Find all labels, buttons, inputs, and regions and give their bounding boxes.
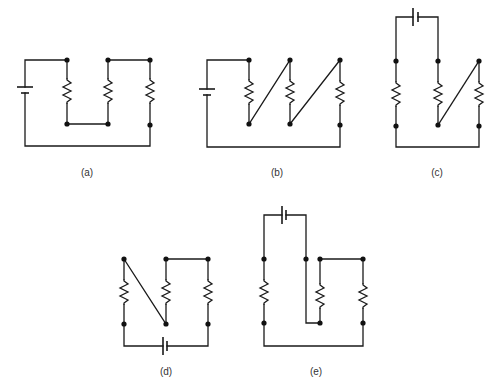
resistor-2 — [104, 78, 112, 104]
resistor-2 — [434, 81, 442, 107]
label-e: (e) — [310, 366, 322, 377]
resistor-1 — [63, 78, 71, 104]
label-b: (b) — [271, 167, 283, 178]
resistor-3 — [475, 81, 483, 107]
resistor-1 — [260, 279, 268, 305]
resistor-3 — [336, 80, 344, 106]
circuit-figure: (a) (b) — [0, 0, 495, 388]
resistor-3 — [359, 283, 367, 309]
resistor-2 — [316, 283, 324, 309]
circuit-e: (e) — [260, 206, 367, 377]
label-c: (c) — [431, 167, 443, 178]
resistor-3 — [204, 279, 212, 305]
resistor-1 — [245, 79, 253, 105]
label-a: (a) — [81, 167, 93, 178]
circuit-c: (c) — [392, 8, 483, 178]
resistor-1 — [392, 81, 400, 107]
circuit-d: (d) — [120, 256, 212, 377]
resistor-3 — [146, 78, 154, 104]
circuit-a: (a) — [17, 57, 154, 178]
resistor-2 — [162, 279, 170, 305]
label-d: (d) — [160, 366, 172, 377]
circuit-b: (b) — [199, 57, 344, 178]
resistor-1 — [120, 279, 128, 305]
resistor-2 — [286, 79, 294, 105]
